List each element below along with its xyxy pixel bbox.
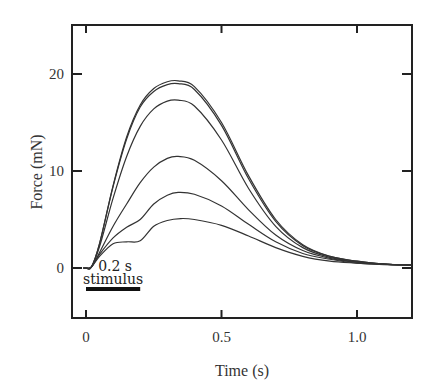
force-trace <box>83 100 411 269</box>
x-tick-label: 0 <box>82 329 90 345</box>
x-tick-label: 0.5 <box>212 329 231 345</box>
force-trace <box>83 192 411 268</box>
force-traces <box>83 80 411 269</box>
force-trace <box>83 83 411 269</box>
force-trace <box>83 218 411 268</box>
axis-ticks: 00.51.001020 <box>49 25 412 345</box>
y-tick-label: 10 <box>49 163 64 179</box>
x-axis-title: Time (s) <box>215 362 269 380</box>
force-time-chart: 00.51.001020 0.2 s stimulus Time (s) For… <box>0 0 432 391</box>
y-tick-label: 20 <box>49 66 64 82</box>
y-axis-title: Force (mN) <box>28 134 46 209</box>
stimulus-label: stimulus <box>83 271 143 287</box>
force-trace <box>83 80 411 269</box>
y-tick-label: 0 <box>57 260 65 276</box>
x-tick-label: 1.0 <box>348 329 367 345</box>
